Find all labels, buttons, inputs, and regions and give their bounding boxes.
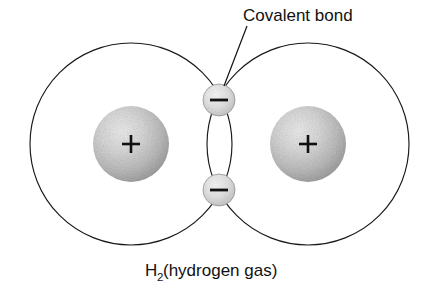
covalent-bond-leader-line [224,26,247,86]
right-nucleus [270,106,346,182]
molecule-illustration: Covalent bond H 2 (hydrogen gas) [0,0,431,288]
caption-name: (hydrogen gas) [163,261,277,280]
top-shared-electron [203,84,235,116]
covalent-bond-label: Covalent bond [243,6,353,25]
covalent-bond-diagram: Covalent bond H 2 (hydrogen gas) [0,0,431,288]
left-nucleus [93,106,169,182]
molecule-caption: H 2 (hydrogen gas) [145,261,277,283]
caption-element-symbol: H [145,261,157,280]
bottom-shared-electron [203,174,235,206]
